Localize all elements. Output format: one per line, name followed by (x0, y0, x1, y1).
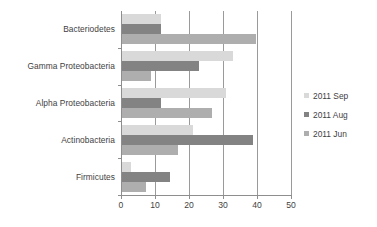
bar (122, 172, 170, 182)
category-label: Firmicutes (0, 172, 115, 182)
category-tick-mark (118, 85, 121, 86)
bar (122, 108, 212, 118)
bar-chart: BacteriodetesGamma ProteobacteriaAlpha P… (0, 0, 377, 227)
legend-swatch-icon (304, 131, 309, 136)
x-tick-mark (121, 196, 122, 199)
bar (122, 14, 161, 24)
gridline (257, 11, 258, 195)
category-tick-mark (118, 48, 121, 49)
category-tick-mark (118, 158, 121, 159)
category-label: Bacteriodetes (0, 24, 115, 34)
x-tick-label: 0 (109, 200, 133, 211)
category-tick-mark (118, 121, 121, 122)
bar (122, 71, 151, 81)
bar (122, 182, 146, 192)
x-tick-mark (257, 196, 258, 199)
category-label: Alpha Proteobacteria (0, 98, 115, 108)
bar (122, 162, 131, 172)
gridline (291, 11, 292, 195)
legend-item[interactable]: 2011 Sep (304, 86, 374, 105)
x-tick-label: 30 (211, 200, 235, 211)
bar (122, 135, 253, 145)
legend-label: 2011 Aug (313, 110, 348, 120)
x-tick-mark (291, 196, 292, 199)
x-tick-label: 40 (245, 200, 269, 211)
legend-item[interactable]: 2011 Jun (304, 124, 374, 143)
bar (122, 98, 161, 108)
bar (122, 51, 233, 61)
bar (122, 125, 193, 135)
bar (122, 34, 256, 44)
x-tick-label: 20 (177, 200, 201, 211)
legend-label: 2011 Jun (313, 129, 347, 139)
bar (122, 24, 161, 34)
plot-area (121, 11, 291, 195)
value-axis: 01020304050 (121, 196, 296, 214)
x-tick-label: 10 (143, 200, 167, 211)
category-label: Gamma Proteobacteria (0, 61, 115, 71)
bar (122, 145, 178, 155)
bar (122, 88, 226, 98)
x-tick-label: 50 (279, 200, 303, 211)
x-tick-mark (223, 196, 224, 199)
category-axis: BacteriodetesGamma ProteobacteriaAlpha P… (0, 11, 119, 195)
bar (122, 61, 199, 71)
legend-swatch-icon (304, 93, 309, 98)
x-tick-mark (189, 196, 190, 199)
category-label: Actinobacteria (0, 135, 115, 145)
legend-label: 2011 Sep (313, 91, 348, 101)
legend-swatch-icon (304, 112, 309, 117)
chart-legend: 2011 Sep2011 Aug2011 Jun (304, 86, 374, 143)
legend-item[interactable]: 2011 Aug (304, 105, 374, 124)
x-tick-mark (155, 196, 156, 199)
